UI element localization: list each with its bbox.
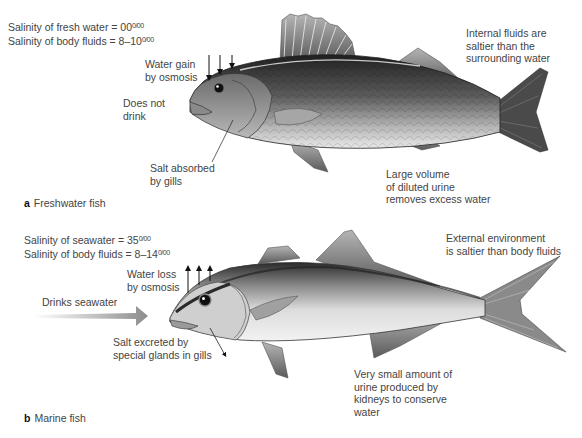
label-does-not-drink: Does not drink (123, 97, 165, 122)
label-salt-excreted: Salt excreted by special glands in gills (113, 336, 212, 361)
label-small-urine: Very small amount of urine produced by k… (354, 368, 452, 418)
label-internal-fluids: Internal fluids are saltier than the sur… (466, 27, 550, 65)
label-water-loss: Water loss by osmosis (127, 268, 180, 293)
label-water-gain: Water gain by osmosis (145, 58, 198, 83)
diagram-artwork (0, 0, 582, 438)
marine-salinity: Salinity of seawater = 350/00 Salinity o… (24, 233, 170, 260)
caption-marine: bMarine fish (24, 412, 86, 424)
freshwater-salinity-env: Salinity of fresh water = 000/00 Salinit… (8, 20, 154, 47)
caption-freshwater: aFreshwater fish (24, 197, 106, 209)
label-drinks-seawater: Drinks seawater (42, 296, 117, 309)
label-salt-absorbed: Salt absorbed by gills (150, 162, 215, 187)
label-large-urine: Large volume of diluted urine removes ex… (386, 168, 490, 206)
label-external-environment: External environment is saltier than bod… (446, 232, 561, 257)
drinks-seawater-arrow (34, 306, 148, 326)
